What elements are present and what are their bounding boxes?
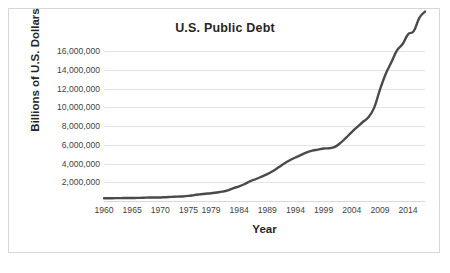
x-axis-tick-label: 1975 (179, 205, 198, 215)
y-axis-tick-label: 2,000,000 (29, 177, 100, 187)
x-axis-tick-label: 1994 (286, 205, 305, 215)
x-axis-tick-label: 1999 (314, 205, 333, 215)
plot-area (104, 51, 425, 201)
x-axis-tick-labels: 1960196519701975197919841989199419992004… (104, 205, 425, 219)
y-axis-tick-label: 12,000,000 (29, 84, 100, 94)
x-axis-tick-label: 1960 (94, 205, 113, 215)
x-axis-tick-label: 2009 (370, 205, 389, 215)
chart-container: U.S. Public Debt Billions of U.S. Dollar… (8, 8, 440, 253)
y-axis-tick-label: 6,000,000 (29, 140, 100, 150)
x-axis-title: Year (104, 223, 425, 235)
chart-title: U.S. Public Debt (9, 21, 441, 35)
x-axis-tick-label: 1989 (258, 205, 277, 215)
x-axis-line (104, 201, 425, 202)
y-axis-tick-label: 4,000,000 (29, 159, 100, 169)
x-axis-tick-label: 2014 (399, 205, 418, 215)
x-axis-tick-label: 1970 (151, 205, 170, 215)
data-series-line (104, 51, 425, 201)
y-axis-tick-label: 10,000,000 (29, 102, 100, 112)
x-axis-tick-label: 1984 (230, 205, 249, 215)
series-path-us-public-debt (104, 12, 425, 199)
x-axis-tick-label: 1979 (201, 205, 220, 215)
y-axis-tick-labels: 2,000,0004,000,0006,000,0008,000,00010,0… (29, 51, 100, 201)
x-axis-tick-label: 2004 (342, 205, 361, 215)
y-axis-tick-label: 14,000,000 (29, 65, 100, 75)
x-axis-tick-label: 1965 (123, 205, 142, 215)
y-axis-tick-label: 8,000,000 (29, 121, 100, 131)
y-axis-tick-label: 16,000,000 (29, 46, 100, 56)
